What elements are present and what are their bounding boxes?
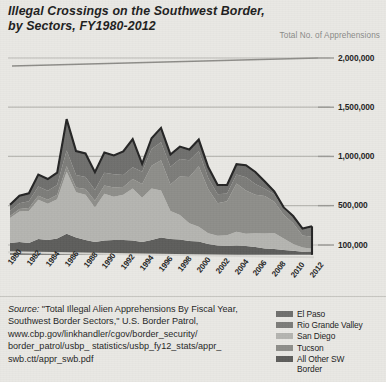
legend-item-label: All Other SW [297, 354, 344, 364]
y-axis-label: 2,000,000 [338, 53, 374, 63]
legend-item-label: El Paso [297, 309, 325, 319]
legend-item[interactable]: San Diego [276, 331, 384, 341]
legend-swatch [276, 322, 293, 328]
legend-item[interactable]: Tucson [276, 343, 384, 353]
footer-divider [0, 296, 386, 297]
source-note: Source: "Total Illegal Alien Apprehensio… [8, 303, 266, 365]
chart-legend: El PasoRio Grande ValleySan DiegoTucsonA… [276, 309, 384, 374]
legend-swatch [276, 311, 293, 317]
y-axis-label: 1,500,000 [338, 102, 374, 112]
legend-item-label: Tucson [297, 343, 324, 353]
legend-swatch [276, 356, 293, 362]
legend-item-label: San Diego [297, 331, 335, 341]
legend-swatch [276, 345, 293, 351]
y-axis-label: 100,000 [338, 240, 368, 250]
y-axis-label: 500,000 [338, 200, 368, 210]
legend-item[interactable]: All Other SW [276, 354, 384, 364]
legend-item[interactable]: El Paso [276, 309, 384, 319]
y-axis-label: 1,000,000 [338, 151, 374, 161]
area-series-group [10, 119, 312, 255]
legend-item-label-continuation: Border [297, 364, 384, 374]
source-text: "Total Illegal Alien Apprehensions By Fi… [8, 304, 238, 364]
axis-caption-rule [12, 58, 318, 66]
legend-swatch [276, 333, 293, 339]
source-label: Source: [8, 304, 39, 314]
legend-item-label: Rio Grande Valley [297, 320, 363, 330]
legend-item[interactable]: Rio Grande Valley [276, 320, 384, 330]
